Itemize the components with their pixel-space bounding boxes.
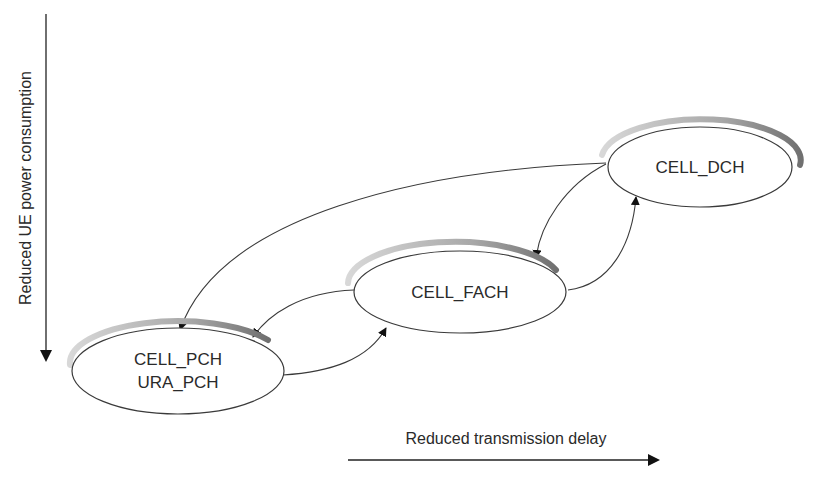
state-label: CELL_FACH <box>411 283 508 302</box>
edge-pch-to-fach <box>283 328 386 375</box>
state-cell-pch-ura-pch[interactable]: CELL_PCH URA_PCH <box>70 321 284 414</box>
vertical-axis: Reduced UE power consumption <box>17 14 52 362</box>
state-ellipse <box>72 328 284 414</box>
state-label-line2: URA_PCH <box>137 373 218 392</box>
state-cell-dch[interactable]: CELL_DCH <box>602 119 801 207</box>
right-arrow-icon <box>648 454 660 466</box>
edge-fach-to-dch <box>568 197 636 290</box>
state-label-line1: CELL_PCH <box>134 350 222 369</box>
horizontal-axis-label: Reduced transmission delay <box>406 430 607 447</box>
state-diagram: Reduced UE power consumption Reduced tra… <box>0 0 824 479</box>
state-cell-fach[interactable]: CELL_FACH <box>348 242 566 333</box>
down-arrow-icon <box>40 350 52 362</box>
horizontal-axis: Reduced transmission delay <box>348 430 660 466</box>
vertical-axis-label: Reduced UE power consumption <box>17 71 34 305</box>
edge-fach-to-pch <box>253 290 354 337</box>
edge-dch-to-fach <box>536 164 606 258</box>
state-label: CELL_DCH <box>656 158 745 177</box>
